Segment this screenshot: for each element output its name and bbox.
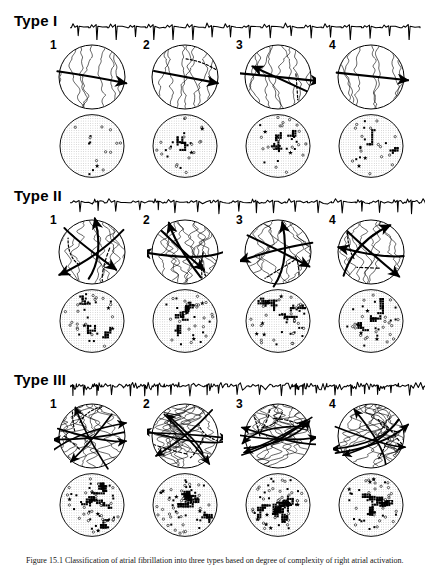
electrode-map-panel-type-1-4	[323, 108, 419, 176]
figure-root: Type I1234Type II1234Type III1234	[0, 0, 431, 567]
activation-panel-type-1-2: 2	[137, 40, 233, 108]
electrode-map-panel-type-3-1	[44, 467, 140, 535]
electrode-map-row	[0, 108, 431, 180]
activation-map-row: 1234	[0, 399, 431, 467]
panel-number: 4	[329, 398, 336, 410]
type-label-1: Type I	[14, 12, 57, 29]
electrode-map-panel-type-1-2	[137, 108, 233, 176]
activation-panel-type-2-3: 3	[230, 215, 326, 283]
figure-caption: Figure 15.1 Classification of atrial fib…	[26, 556, 416, 567]
activation-panel-type-1-3: 3	[230, 40, 326, 108]
type-label-3: Type III	[14, 371, 66, 388]
electrode-map-panel-type-2-1	[44, 283, 140, 351]
panel-number: 4	[329, 214, 336, 226]
activation-panel-type-3-2: 2	[137, 399, 233, 467]
ecg-type-1	[70, 8, 425, 40]
electrode-map-panel-type-2-2	[137, 283, 233, 351]
activation-map-row: 1234	[0, 215, 431, 283]
electrode-map-row	[0, 467, 431, 539]
activation-panel-type-1-1: 1	[44, 40, 140, 108]
electrode-map-panel-type-3-3	[230, 467, 326, 535]
panel-number: 3	[236, 39, 243, 51]
panel-number: 4	[329, 39, 336, 51]
type-label-2: Type II	[14, 187, 62, 204]
ecg-type-2	[70, 183, 425, 215]
activation-panel-type-3-1: 1	[44, 399, 140, 467]
activation-panel-type-3-4: 4	[323, 399, 419, 467]
panel-number: 2	[143, 39, 150, 51]
activation-map-row: 1234	[0, 40, 431, 108]
panel-number: 2	[143, 398, 150, 410]
activation-panel-type-2-2: 2	[137, 215, 233, 283]
activation-panel-type-2-4: 4	[323, 215, 419, 283]
electrode-map-panel-type-1-3	[230, 108, 326, 176]
type-block-3: Type III1234	[0, 367, 431, 539]
panel-number: 1	[50, 39, 57, 51]
electrode-map-panel-type-3-2	[137, 467, 233, 535]
ecg-type-3	[70, 367, 425, 399]
activation-panel-type-3-3: 3	[230, 399, 326, 467]
panel-number: 1	[50, 214, 57, 226]
electrode-map-panel-type-3-4	[323, 467, 419, 535]
electrode-map-panel-type-2-3	[230, 283, 326, 351]
panel-number: 1	[50, 398, 57, 410]
electrode-map-panel-type-1-1	[44, 108, 140, 176]
panel-number: 3	[236, 398, 243, 410]
panel-number: 3	[236, 214, 243, 226]
type-header: Type II	[0, 183, 431, 215]
type-header: Type I	[0, 8, 431, 40]
type-block-2: Type II1234	[0, 183, 431, 355]
type-header: Type III	[0, 367, 431, 399]
electrode-map-panel-type-2-4	[323, 283, 419, 351]
activation-panel-type-1-4: 4	[323, 40, 419, 108]
activation-panel-type-2-1: 1	[44, 215, 140, 283]
panel-number: 2	[143, 214, 150, 226]
type-block-1: Type I1234	[0, 8, 431, 180]
electrode-map-row	[0, 283, 431, 355]
